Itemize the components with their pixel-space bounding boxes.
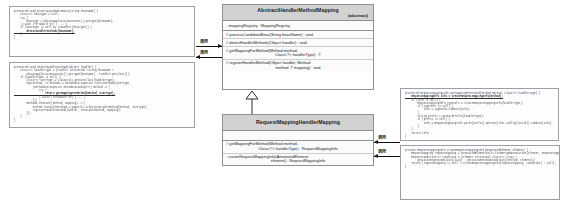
- code-panel-detect-handler-methods: protected void detectHandlerMethods(Obje…: [9, 62, 195, 128]
- code-panel-create-request-mapping-info: private RequestMappingInfo createRequest…: [400, 145, 560, 200]
- code-body: protected void detectHandlerMethods(Obje…: [14, 66, 190, 122]
- uml-header-concrete: RequestMappingHandlerMapping: [223, 115, 373, 131]
- uml-methods-abstract: # processCandidateBean(String beanName) …: [223, 31, 373, 71]
- uml-method-line2: Class<?> handlerType) : T: [226, 53, 370, 58]
- uml-method-line2: element) : RequestMappingInfo: [226, 159, 370, 164]
- uml-method-row: # registerHandlerMethod(Object handler, …: [223, 60, 373, 72]
- uml-method-row: # detectHandlerMethods(Object handler) :…: [223, 39, 373, 47]
- call-arrow-2-head: [196, 55, 200, 59]
- uml-class-name: RequestMappingHandlerMapping: [225, 119, 371, 125]
- code-line: }: [405, 135, 554, 138]
- call-arrow-1-label: 调用: [199, 39, 208, 44]
- code-body: private RequestMappingInfo createRequest…: [405, 149, 555, 169]
- uml-method-row: - createRequestMappingInfo(AnnotatedElem…: [223, 154, 373, 166]
- uml-class-request-mapping-handler-mapping: RequestMappingHandlerMapping # getMappin…: [222, 114, 374, 166]
- uml-method-line2: Class<?> handlerType) : RequestMappingIn…: [226, 147, 370, 152]
- code-body: protected void processCandidateBean(Stri…: [14, 10, 190, 40]
- uml-method-row: # getMappingForMethod(Method method, Cla…: [223, 47, 373, 60]
- uml-method-row: # getMappingForMethod(Method method, Cla…: [223, 141, 373, 154]
- uml-method-line1: # detectHandlerMethods(Object handler) :…: [226, 40, 307, 45]
- call-arrow-4-label: 调用: [377, 149, 386, 154]
- code-line: }: [14, 36, 190, 39]
- call-arrow-3-label: 调用: [377, 135, 386, 140]
- call-arrow-4-head: [374, 154, 378, 158]
- code-body: protected RequestMappingInfo getMappingF…: [405, 92, 554, 138]
- uml-method-row: # processCandidateBean(String beanName) …: [223, 31, 373, 39]
- code-panel-process-candidate-bean: protected void processCandidateBean(Stri…: [9, 6, 195, 57]
- uml-methods-concrete: # getMappingForMethod(Method method, Cla…: [223, 141, 373, 165]
- code-line: }: [14, 119, 190, 122]
- uml-attribute-row: - mappingRegistry : MappingRegistry: [223, 22, 373, 29]
- uml-class-stereotype: (abstract): [225, 13, 371, 18]
- code-line: }: [405, 165, 555, 168]
- uml-class-abstract-handler-method-mapping: AbstractHandlerMethodMapping (abstract) …: [222, 4, 374, 90]
- uml-attributes-abstract: - mappingRegistry : MappingRegistry: [223, 21, 373, 31]
- uml-method-line2: method, T mapping) : void: [226, 66, 370, 71]
- uml-method-line1: # processCandidateBean(String beanName) …: [226, 32, 313, 37]
- code-panel-get-mapping-for-method: protected RequestMappingInfo getMappingF…: [400, 88, 559, 141]
- uml-attributes-concrete: [223, 131, 373, 141]
- uml-header-abstract: AbstractHandlerMethodMapping (abstract): [223, 5, 373, 21]
- call-arrow-2-label: 调用: [199, 50, 208, 55]
- call-arrow-1-head: [218, 44, 222, 48]
- diagram-canvas: protected void processCandidateBean(Stri…: [0, 0, 563, 203]
- call-arrow-3-head: [374, 140, 378, 144]
